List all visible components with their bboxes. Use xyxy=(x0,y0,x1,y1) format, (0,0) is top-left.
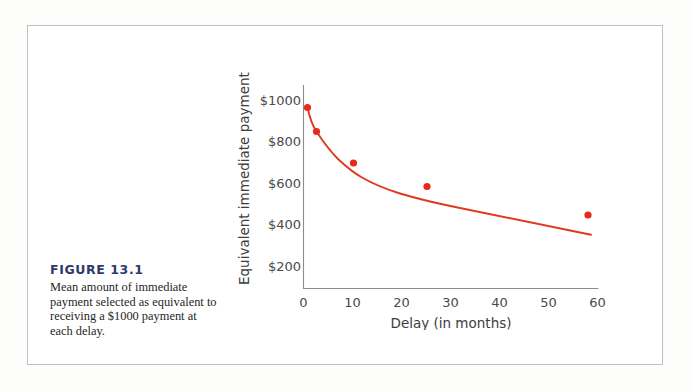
figure-page: FIGURE 13.1 Mean amount of immediate pay… xyxy=(0,0,690,392)
x-axis-tick-labels: 0 10 20 30 40 50 60 xyxy=(299,295,605,310)
figure-caption-block: FIGURE 13.1 Mean amount of immediate pay… xyxy=(50,262,220,338)
decay-line-chart: Equivalent immediate payment $1000 $800 … xyxy=(235,55,635,330)
y-tick-label: $600 xyxy=(268,176,301,191)
data-point xyxy=(423,183,430,190)
figure-number-label: FIGURE 13.1 xyxy=(50,262,220,277)
chart-container: Equivalent immediate payment $1000 $800 … xyxy=(235,55,635,330)
x-tick-label: 20 xyxy=(393,295,410,310)
x-axis-title: Delay (in months) xyxy=(391,315,512,330)
fitted-decay-curve xyxy=(308,108,592,235)
x-tick-label: 60 xyxy=(589,295,606,310)
data-point xyxy=(304,104,311,111)
figure-caption-text: Mean amount of immediate payment selecte… xyxy=(50,280,220,338)
y-axis-tick-labels: $1000 $800 $600 $400 $200 xyxy=(260,93,301,274)
axis-lines xyxy=(304,85,599,289)
data-point xyxy=(584,211,591,218)
data-point-group xyxy=(304,104,592,219)
data-point xyxy=(350,159,357,166)
x-tick-label: 50 xyxy=(540,295,557,310)
y-tick-label: $1000 xyxy=(260,93,301,108)
y-tick-label: $200 xyxy=(268,259,301,274)
x-tick-label: 40 xyxy=(491,295,508,310)
x-tick-label: 30 xyxy=(442,295,459,310)
data-point xyxy=(313,128,320,135)
y-axis-title: Equivalent immediate payment xyxy=(236,72,252,285)
y-tick-label: $400 xyxy=(268,217,301,232)
x-tick-label: 10 xyxy=(344,295,361,310)
y-tick-label: $800 xyxy=(268,134,301,149)
x-tick-label: 0 xyxy=(299,295,307,310)
